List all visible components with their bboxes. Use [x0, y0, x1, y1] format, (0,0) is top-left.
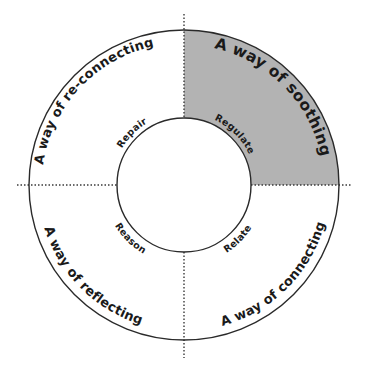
inner-circle: [117, 118, 251, 252]
four-r-ring-diagram: A way of re-connecting A way of soothing…: [0, 0, 365, 371]
